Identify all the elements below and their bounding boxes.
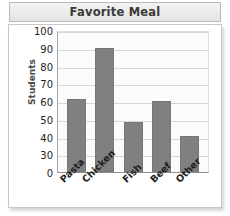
- y-tick-label: 90: [23, 43, 53, 54]
- x-slot: Beef: [147, 175, 176, 209]
- y-tick-label: 40: [23, 132, 53, 143]
- y-tick-label: 100: [23, 26, 53, 37]
- bar-slot: [147, 32, 175, 172]
- chart-card: Students 100908070605040300 PastaChicken…: [8, 24, 222, 208]
- chart-title-banner: Favorite Meal: [9, 2, 221, 22]
- x-slot: Chicken: [90, 175, 119, 209]
- y-tick-label: 30: [23, 150, 53, 161]
- bar-slot: [62, 32, 90, 172]
- bar[interactable]: [152, 101, 171, 172]
- y-tick-label: 60: [23, 97, 53, 108]
- y-tick-label: 80: [23, 61, 53, 72]
- y-axis-tick-labels: 100908070605040300: [23, 25, 53, 173]
- x-slot: Other: [176, 175, 205, 209]
- chart-title: Favorite Meal: [70, 5, 161, 19]
- bar-slot: [119, 32, 147, 172]
- x-axis-tick-labels: PastaChickenFishBeefOther: [57, 175, 209, 209]
- plot-area: [57, 31, 209, 173]
- y-tick-label: 50: [23, 114, 53, 125]
- x-slot: Fish: [119, 175, 148, 209]
- y-tick-label: 0: [23, 168, 53, 179]
- bar-slot: [176, 32, 204, 172]
- bar-series: [58, 32, 208, 172]
- y-tick-label: 70: [23, 79, 53, 90]
- chart-page: Favorite Meal Students 10090807060504030…: [0, 0, 230, 216]
